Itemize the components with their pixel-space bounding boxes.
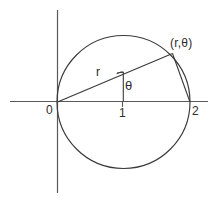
polar-circle-figure: (r,θ) r θ 0 1 2 [0,0,210,203]
radius-label: r [96,66,100,78]
figure-canvas [0,0,210,203]
origin-label: 0 [46,104,53,116]
chord-segment [173,54,190,102]
tick-label-one: 1 [119,107,126,119]
radius-ray [58,54,173,103]
point-label: (r,θ) [170,37,192,49]
angle-label: θ [125,79,132,92]
tick-label-two: 2 [192,105,199,117]
